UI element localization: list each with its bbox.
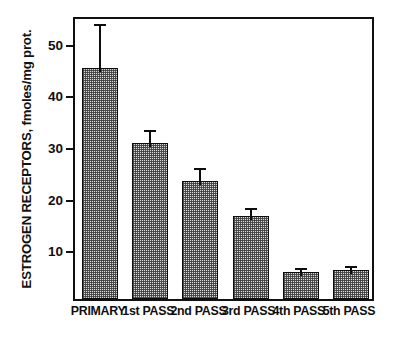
x-axis-label-4th-pass: 4th PASS <box>273 304 325 318</box>
x-axis-label-2nd-pass: 2nd PASS <box>170 304 226 318</box>
y-tick-20 <box>66 200 75 202</box>
bar-primary <box>82 68 118 299</box>
error-bar-cap-2 <box>144 130 156 132</box>
error-bar-cap-3 <box>194 168 206 170</box>
y-tick-label-20: 20 <box>48 192 63 207</box>
error-bar-cap-4 <box>245 208 257 210</box>
y-axis-title: ESTROGEN RECEPTORS, fmoles/mg prot. <box>18 14 36 304</box>
error-bar-stem-3 <box>199 168 201 186</box>
error-bar-cap-5 <box>295 268 307 270</box>
x-axis-label-1st-pass: 1st PASS <box>122 304 174 318</box>
y-tick-label-30: 30 <box>48 141 63 156</box>
error-bar-stem-2 <box>149 130 151 147</box>
x-axis-label-3rd-pass: 3rd PASS <box>222 304 275 318</box>
y-tick-label-50: 50 <box>48 37 63 52</box>
bar-2nd-pass <box>182 181 218 299</box>
error-bar-cap-6 <box>345 266 357 268</box>
y-tick-40 <box>66 96 75 98</box>
bar-3rd-pass <box>233 216 269 299</box>
bar-1st-pass <box>132 143 168 299</box>
x-axis-label-5th-pass: 5th PASS <box>323 304 375 318</box>
y-tick-30 <box>66 148 75 150</box>
bar-5th-pass <box>333 270 369 299</box>
bar-chart-figure: ESTROGEN RECEPTORS, fmoles/mg prot. 1020… <box>0 0 397 342</box>
x-axis-label-primary: PRIMARY <box>71 304 126 318</box>
y-tick-label-10: 10 <box>48 244 63 259</box>
bar-4th-pass <box>283 272 319 299</box>
plot-area: 1020304050 <box>73 17 374 301</box>
error-bar-cap-1 <box>94 24 106 26</box>
y-tick-label-40: 40 <box>48 89 63 104</box>
y-tick-10 <box>66 251 75 253</box>
error-bar-stem-1 <box>99 24 101 72</box>
y-tick-50 <box>66 45 75 47</box>
